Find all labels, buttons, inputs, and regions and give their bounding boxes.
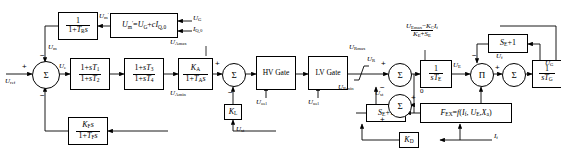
amplifier-numerator: KA <box>189 64 202 73</box>
summing-junction-main: Σ <box>32 61 60 89</box>
sigma-symbol-saturation: Σ <box>397 101 402 111</box>
label-u-f: Uf <box>496 53 503 61</box>
lead-lag-block-1: 1+sT1 1+sT2 <box>70 58 110 90</box>
kl-label: KL <box>227 108 240 117</box>
lead-lag-1-denominator: 1+sT2 <box>79 74 102 84</box>
label-i-q0: IQ,0 <box>193 26 202 34</box>
lv-gate-label: LV Gate <box>315 69 340 77</box>
amplifier-block: KA 1+TAs <box>178 58 213 90</box>
polarity-exciter-plus: + <box>381 60 386 68</box>
amplifier-denominator: 1+TAs <box>183 74 207 84</box>
transducer-block: 1 1+TRs <box>58 12 98 40</box>
lead-lag-1-numerator: 1+sT1 <box>79 64 102 73</box>
kd-label: KD <box>402 136 415 145</box>
generator-integrator-denominator: sTG <box>539 73 555 83</box>
exciter-limit-numerator: UEmax−KCIf <box>404 23 440 30</box>
stabilizer-denominator: 1+TFs <box>76 131 99 141</box>
label-u-e-exciter: UE <box>453 62 461 70</box>
polarity-sat-plus-bottom: + <box>380 116 385 124</box>
stabilizer-feedback-block: KFs 1+TFs <box>68 117 108 145</box>
polarity-amp-plus: + <box>215 60 220 68</box>
lead-lag-2-numerator: 1+sT3 <box>133 64 156 73</box>
label-i-f: If <box>494 133 498 141</box>
polarity-gen-minus: − <box>472 52 477 60</box>
exciter-integrator-limiter-icon <box>424 48 438 62</box>
polarity-amp-minus: − <box>228 89 233 97</box>
saturation-block-top: SE+1 <box>488 34 528 53</box>
compensation-equation: Um′=UG+cIQ,0 <box>120 21 168 30</box>
sigma-symbol-main: Σ <box>43 70 48 80</box>
excitation-system-diagram: 1 1+TRs Um′=UG+cIQ,0 1+sT1 1+sT2 1+sT3 1… <box>0 0 561 154</box>
label-u-ref: Uref <box>5 78 15 86</box>
label-u-r-max: URmax <box>349 44 365 52</box>
exciter-integrator-block: 1 sTE <box>420 60 452 88</box>
pi-symbol: Π <box>479 70 486 80</box>
kl-gain-block: KL <box>224 104 242 120</box>
multiplier-junction: Π <box>470 63 494 87</box>
stabilizer-numerator: KFs <box>80 121 96 130</box>
label-u-uel: Uuel <box>308 99 319 107</box>
polarity-sat-plus-right: + <box>411 94 416 102</box>
sigma-symbol-exciter: Σ <box>397 70 402 80</box>
exciter-integrator-numerator: 1 <box>432 65 440 73</box>
label-u-g-input: UG <box>193 15 202 23</box>
kd-gain-block: KD <box>399 132 419 148</box>
label-u-r-min: URmin <box>338 84 354 92</box>
amplifier-limiter-icon <box>205 44 219 58</box>
summing-junction-exciter: Σ <box>388 63 412 87</box>
label-u-e: Ue <box>59 63 66 71</box>
polarity-main-plus: + <box>22 63 27 71</box>
summing-junction-amplifier: Σ <box>222 63 246 87</box>
lead-lag-block-2: 1+sT3 1+sT4 <box>124 58 164 90</box>
polarity-gen-plus: + <box>495 64 500 72</box>
hv-gate-label: HV Gate <box>263 69 290 77</box>
sigma-symbol-generator: Σ <box>511 70 516 80</box>
transducer-numerator: 1 <box>74 17 82 25</box>
compensation-block: Um′=UG+cIQ,0 <box>110 13 178 38</box>
fex-label: FEX=f(If, UE,Xa) <box>438 109 493 118</box>
summing-junction-generator: Σ <box>502 63 526 87</box>
saturation-top-label: SE+1 <box>498 39 518 48</box>
exciter-limit-denominator: KE+SE <box>411 30 433 38</box>
label-u-m-prime: Um′ <box>99 13 109 21</box>
label-zero-limit: 0 <box>420 88 424 95</box>
label-u-m: Um <box>48 44 57 52</box>
exciter-upper-limit-expression: UEmax−KCIf KE+SE <box>404 14 440 39</box>
exciter-input-limiter-icon <box>352 62 370 84</box>
hv-gate-block: HV Gate <box>256 56 296 90</box>
label-u-g-output: UG <box>545 60 554 68</box>
label-u-a-min: UAmin <box>170 90 186 98</box>
label-u-oel: Uoel <box>256 99 267 107</box>
exciter-integrator-denominator: sTE <box>429 73 444 83</box>
label-u-a-max: UAmax <box>170 39 187 47</box>
polarity-main-minus-top: − <box>40 52 45 60</box>
fex-function-block: FEX=f(If, UE,Xa) <box>420 103 512 123</box>
transducer-denominator: 1+TRs <box>66 25 90 35</box>
polarity-exciter-minus: − <box>380 84 385 92</box>
lead-lag-2-denominator: 1+sT4 <box>133 74 156 84</box>
sigma-symbol-amplifier: Σ <box>231 70 236 80</box>
label-u-r: UR <box>367 56 375 64</box>
summing-junction-saturation: Σ <box>388 94 412 118</box>
label-u-st: Ust <box>236 126 244 134</box>
polarity-main-minus-bottom: − <box>40 92 45 100</box>
